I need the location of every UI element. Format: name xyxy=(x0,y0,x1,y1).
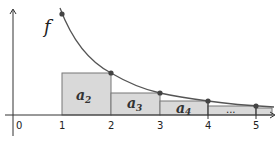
point-3 xyxy=(157,90,162,95)
x-tick-2: 2 xyxy=(108,120,114,131)
origin-label: 0 xyxy=(16,120,22,131)
point-2 xyxy=(108,70,113,75)
point-5 xyxy=(253,103,258,108)
x-tick-3: 3 xyxy=(157,120,163,131)
function-label: f xyxy=(42,16,54,37)
rect-a2 xyxy=(62,73,111,115)
point-1 xyxy=(59,11,64,16)
integral-test-diagram: f a2 a3 a4 ... 0 1 2 3 4 5 xyxy=(0,0,279,143)
x-tick-1: 1 xyxy=(59,120,65,131)
rect-tail xyxy=(256,108,272,115)
x-tick-4: 4 xyxy=(205,120,211,131)
label-ellipsis: ... xyxy=(226,104,236,115)
x-tick-5: 5 xyxy=(253,120,259,131)
point-4 xyxy=(205,98,210,103)
